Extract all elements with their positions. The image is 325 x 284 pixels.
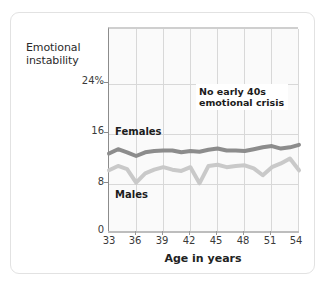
annotation-line-2: emotional crisis [199, 97, 286, 108]
x-tick-label-51: 51 [257, 235, 283, 246]
series-label-females: Females [115, 126, 162, 137]
y-tick-label-24: 24% [60, 75, 104, 86]
x-tick-label-33: 33 [96, 235, 122, 246]
y-tick-label-0: 0 [60, 224, 104, 235]
y-tick-label-16: 16 [60, 125, 104, 136]
annotation-line-1: No early 40s [199, 86, 286, 97]
x-tick-label-39: 39 [149, 235, 175, 246]
x-axis-title: Age in years [108, 252, 298, 265]
x-tick-label-48: 48 [230, 235, 256, 246]
x-tick-label-36: 36 [122, 235, 148, 246]
series-line-males [109, 159, 299, 184]
series-line-females [109, 145, 299, 156]
series-label-males: Males [115, 189, 148, 200]
annotation-no-early-40s-crisis: No early 40s emotional crisis [196, 84, 288, 110]
y-tick-label-8: 8 [60, 176, 104, 187]
chart-figure: Emotional instability 24% 16 8 0 33 36 3… [0, 0, 325, 284]
x-tick-label-54: 54 [283, 235, 309, 246]
x-tick-label-45: 45 [203, 235, 229, 246]
x-tick-label-42: 42 [176, 235, 202, 246]
